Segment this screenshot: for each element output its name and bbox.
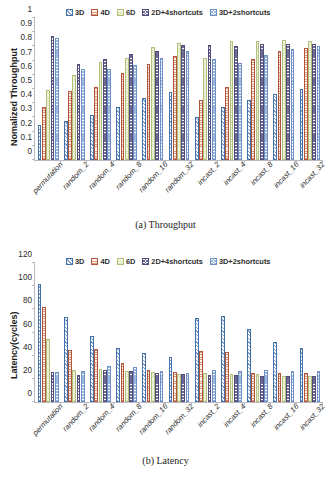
x-axis-label-incast_4: incast_4: [222, 402, 248, 429]
bar-3d-incast_32: [300, 89, 304, 160]
x-axis-tick-mark: [217, 160, 218, 163]
bar-2d-plus-4shortcuts-random_16: [155, 51, 159, 160]
legend-item-2d-plus-4shortcuts: 2D+4shortcuts: [142, 8, 203, 17]
y-axis-tick-label: 80: [23, 296, 35, 305]
caption-latency: (b) Latency: [0, 455, 331, 466]
y-axis-tick-label: 120: [18, 250, 35, 259]
bar-3d-plus-2shortcuts-incast_8: [264, 370, 268, 402]
y-axis-tick-mark: [32, 102, 35, 103]
y-axis-tick-label: 0.2: [21, 118, 35, 127]
legend-item-label: 3D: [75, 8, 84, 17]
y-axis-tick-label: 0.4: [21, 90, 35, 99]
bar-6d-incast_16: [282, 40, 286, 160]
bar-4d-incast_32: [304, 373, 308, 402]
bar-2d-plus-4shortcuts-permutation: [51, 372, 55, 402]
bar-3d-plus-2shortcuts-random_4: [107, 366, 111, 402]
bar-3d-plus-2shortcuts-random_4: [107, 69, 111, 160]
bar-6d-incast_8: [256, 374, 260, 402]
bar-4d-random_8: [121, 363, 125, 402]
y-axis-tick-mark: [32, 262, 35, 263]
y-axis-tick-mark: [32, 17, 35, 18]
x-axis-tick-mark: [139, 402, 140, 405]
bar-2d-plus-4shortcuts-random_8: [129, 371, 133, 402]
bar-group: [245, 18, 271, 160]
y-axis-tick-mark: [32, 74, 35, 75]
panel-throughput: 3D4D6D2D+4shortcuts3D+2shortcuts Nomaliz…: [0, 0, 331, 239]
bar-2d-plus-4shortcuts-random_32: [181, 374, 185, 402]
bar-2d-plus-4shortcuts-incast_2: [208, 45, 212, 160]
bar-3d-random_32: [169, 92, 173, 160]
bar-3d-plus-2shortcuts-random_32: [186, 373, 190, 402]
y-axis-tick-label: 0: [27, 389, 35, 398]
bar-2d-plus-4shortcuts-random_2: [77, 375, 81, 402]
x-axis-tick-mark: [86, 160, 87, 163]
bar-6d-random_32: [177, 43, 181, 160]
bar-2d-plus-4shortcuts-incast_16: [286, 44, 290, 160]
bar-3d-permutation: [38, 284, 42, 402]
x-axis-label-incast_8: incast_8: [248, 160, 274, 187]
bar-group: [271, 18, 297, 160]
x-axis-tick-mark: [244, 402, 245, 405]
y-axis-tick-mark: [32, 88, 35, 89]
bar-3d-random_2: [64, 317, 68, 402]
x-axis-label-incast_2: incast_2: [196, 402, 222, 429]
bar-group: [166, 263, 192, 402]
bar-4d-random_32: [173, 56, 177, 160]
bar-3d-plus-2shortcuts-permutation: [55, 372, 59, 402]
bar-3d-plus-2shortcuts-incast_16: [291, 371, 295, 402]
x-axis-tick-mark: [165, 402, 166, 405]
bar-3d-plus-2shortcuts-permutation: [55, 38, 59, 160]
plot-area-latency: Latency(cycles) permutationrandom_2rando…: [34, 263, 323, 403]
bar-2d-plus-4shortcuts-incast_4: [234, 375, 238, 402]
bar-4d-incast_4: [225, 352, 229, 402]
bar-2d-plus-4shortcuts-incast_32: [312, 376, 316, 402]
bar-3d-plus-2shortcuts-incast_4: [238, 63, 242, 160]
legend-item-label: 2D+4shortcuts: [151, 8, 203, 17]
bar-group: [245, 263, 271, 402]
y-axis-tick-mark: [32, 45, 35, 46]
bar-6d-permutation: [46, 339, 50, 402]
y-axis-tick-label: 60: [23, 319, 35, 328]
bar-6d-permutation: [46, 90, 50, 160]
legend-item-label: 6D: [126, 8, 135, 17]
bar-4d-random_16: [147, 370, 151, 402]
y-axis-label-throughput: Nomalized Throughput: [9, 48, 19, 146]
bar-group: [114, 18, 140, 160]
y-axis-tick-label: 0.7: [21, 47, 35, 56]
x-axis-tick-mark: [165, 160, 166, 163]
x-axis-tick-mark: [139, 160, 140, 163]
x-axis-labels-throughput: permutationrandom_2random_4random_8rando…: [35, 160, 323, 216]
x-axis-tick-mark: [191, 402, 192, 405]
bar-groups-throughput: [35, 18, 323, 160]
x-axis-label-permutation: permutation: [31, 402, 65, 437]
legend-item-label: 4D: [100, 8, 109, 17]
bar-group: [271, 263, 297, 402]
bar-4d-incast_8: [251, 59, 255, 160]
x-axis-label-incast_32: incast_32: [298, 160, 327, 190]
bar-6d-incast_2: [203, 58, 207, 160]
y-axis-tick-mark: [32, 332, 35, 333]
bar-6d-incast_32: [308, 376, 312, 402]
bar-6d-incast_8: [256, 41, 260, 160]
bar-group: [87, 18, 113, 160]
bar-2d-plus-4shortcuts-random_4: [103, 59, 107, 160]
x-axis-label-random_2: random_2: [61, 160, 91, 191]
bar-6d-incast_32: [308, 41, 312, 160]
bar-3d-plus-2shortcuts-random_8: [133, 367, 137, 402]
bar-6d-incast_16: [282, 376, 286, 402]
bar-2d-plus-4shortcuts-incast_4: [234, 46, 238, 160]
y-axis-tick-mark: [32, 285, 35, 286]
bar-3d-random_32: [169, 357, 173, 402]
bar-3d-plus-2shortcuts-incast_16: [291, 49, 295, 160]
bar-4d-random_2: [68, 350, 72, 402]
figure-root: 3D4D6D2D+4shortcuts3D+2shortcuts Nomaliz…: [0, 0, 331, 478]
x-axis-tick-mark: [113, 402, 114, 405]
bar-4d-random_16: [147, 64, 151, 160]
bar-group: [218, 263, 244, 402]
bar-3d-random_2: [64, 121, 68, 160]
x-axis-tick-mark: [296, 402, 297, 405]
bar-group: [297, 263, 323, 402]
panel-latency: 3D4D6D2D+4shortcuts3D+2shortcuts Latency…: [0, 239, 331, 478]
bar-2d-plus-4shortcuts-random_4: [103, 370, 107, 402]
bar-3d-incast_8: [247, 100, 251, 160]
